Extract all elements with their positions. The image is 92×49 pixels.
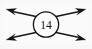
node-group: 14 [33, 12, 58, 37]
node-diagram: 14 [0, 0, 92, 49]
figure-container: 14 [0, 0, 92, 49]
node-label: 14 [40, 19, 52, 31]
